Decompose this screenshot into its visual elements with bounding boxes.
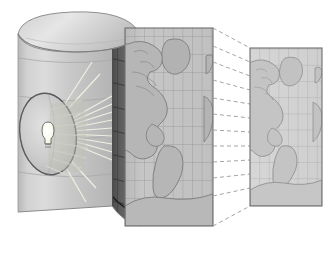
stage-flat-map xyxy=(244,48,322,206)
projection-dashed-lines xyxy=(213,28,250,226)
projection-diagram: Cylindrical map projection Light source … xyxy=(0,0,330,257)
stage-unrolled-map xyxy=(110,28,213,226)
projection-diagram-canvas xyxy=(0,0,330,257)
cylinder-top-ellipse xyxy=(18,12,140,52)
